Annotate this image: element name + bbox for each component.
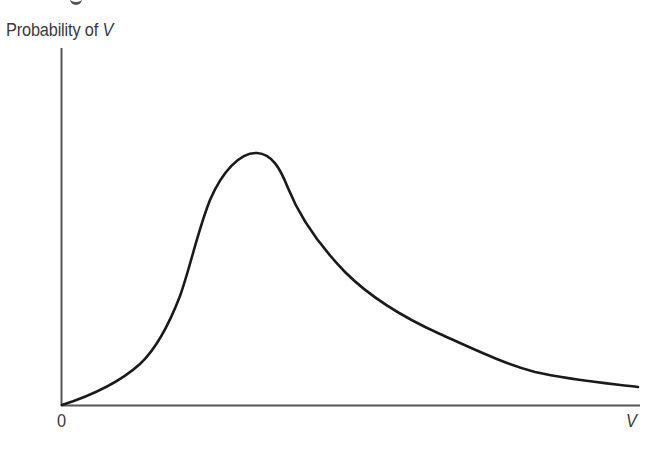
plot-area: [0, 0, 662, 457]
x-axis-origin-label: 0: [57, 410, 66, 432]
probability-curve: [62, 153, 638, 405]
x-axis-label: V: [626, 410, 637, 432]
figure: Probability of V 0 V: [0, 0, 662, 457]
